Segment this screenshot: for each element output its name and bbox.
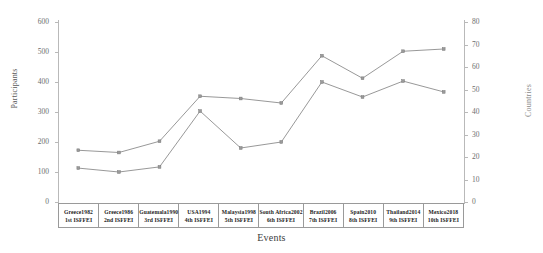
right-y-tick-label: 20 [472, 153, 496, 161]
x-axis-category-9: Thailand20149th ISFFEI [384, 204, 424, 227]
data-point-marker [442, 91, 445, 94]
data-point-marker [321, 54, 324, 57]
data-point-marker [158, 166, 161, 169]
data-point-marker [321, 81, 324, 84]
series-plot-area [58, 22, 464, 202]
right-y-tick-label: 70 [472, 41, 496, 49]
data-point-marker [442, 48, 445, 51]
category-event-name: Malaysia1998 [222, 208, 256, 216]
x-axis-category-6: South Africa20026th ISFFEI [259, 204, 303, 227]
right-y-tick-label: 10 [472, 176, 496, 184]
right-y-tick [464, 22, 468, 23]
category-event-ordinal: 6th ISFFEI [267, 216, 295, 224]
right-y-tick-label: 80 [472, 18, 496, 26]
right-y-axis-title: Countries [524, 65, 533, 137]
category-event-ordinal: 7th ISFFEI [309, 216, 337, 224]
left-y-tick-label: 600 [15, 18, 49, 26]
category-event-ordinal: 2nd ISFFEI [104, 216, 133, 224]
category-event-name: Mexico2018 [429, 208, 459, 216]
left-y-tick-label: 200 [15, 138, 49, 146]
data-point-marker [158, 140, 161, 143]
category-event-ordinal: 9th ISFFEI [389, 216, 417, 224]
data-point-marker [402, 80, 405, 83]
x-axis-category-8: Spain20108th ISFFEI [344, 204, 384, 227]
data-point-marker [280, 141, 283, 144]
left-y-tick-label: 400 [15, 78, 49, 86]
data-point-marker [118, 171, 121, 174]
right-y-tick [464, 67, 468, 68]
right-y-tick-label: 30 [472, 131, 496, 139]
right-y-tick [464, 157, 468, 158]
right-y-tick-label: 40 [472, 108, 496, 116]
category-event-name: Greece1986 [104, 208, 133, 216]
category-event-ordinal: 4th ISFFEI [185, 216, 213, 224]
data-point-marker [239, 147, 242, 150]
data-point-marker [361, 96, 364, 99]
right-y-tick-label: 60 [472, 63, 496, 71]
x-axis-category-3: Guatemala19903rd ISFFEI [139, 204, 179, 227]
x-axis-category-10: Mexico201810th ISFFEI [424, 204, 464, 227]
right-y-tick-label: 0 [472, 198, 496, 206]
x-axis-category-5: Malaysia19985th ISFFEI [219, 204, 259, 227]
data-point-marker [199, 95, 202, 98]
category-event-ordinal: 5th ISFFEI [225, 216, 253, 224]
category-event-name: Brazil2006 [310, 208, 337, 216]
data-point-marker [239, 97, 242, 100]
data-point-marker [199, 110, 202, 113]
data-point-marker [280, 102, 283, 105]
x-axis-category-4: USA19944th ISFFEI [179, 204, 219, 227]
left-y-tick-label: 100 [15, 168, 49, 176]
category-event-name: Spain2010 [350, 208, 376, 216]
data-point-marker [77, 167, 80, 170]
category-event-name: Thailand2014 [386, 208, 420, 216]
category-event-ordinal: 1st ISFFEI [65, 216, 92, 224]
category-event-ordinal: 10th ISFFEI [428, 216, 459, 224]
data-point-marker [361, 77, 364, 80]
right-y-tick [464, 45, 468, 46]
right-y-tick [464, 180, 468, 181]
series-line-participants [78, 81, 443, 172]
right-y-tick [464, 135, 468, 136]
right-y-tick [464, 112, 468, 113]
participants-countries-line-chart: Participants Countries Events 0100200300… [0, 0, 543, 253]
right-y-tick [464, 90, 468, 91]
category-event-name: Greece1982 [64, 208, 93, 216]
x-axis-title: Events [0, 232, 543, 243]
x-axis-category-1: Greece19821st ISFFEI [59, 204, 99, 227]
right-y-tick-label: 50 [472, 86, 496, 94]
category-event-ordinal: 8th ISFFEI [349, 216, 377, 224]
left-y-tick-label: 0 [15, 198, 49, 206]
data-point-marker [77, 149, 80, 152]
category-event-name: Guatemala1990 [139, 208, 178, 216]
series-line-countries [78, 49, 443, 153]
data-point-marker [402, 50, 405, 53]
left-y-tick-label: 500 [15, 48, 49, 56]
x-axis-category-7: Brazil20067th ISFFEI [304, 204, 344, 227]
left-y-tick-label: 300 [15, 108, 49, 116]
data-point-marker [118, 151, 121, 154]
category-event-name: South Africa2002 [259, 208, 302, 216]
right-y-tick [464, 202, 468, 203]
x-axis-category-boxes: Greece19821st ISFFEIGreece19862nd ISFFEI… [58, 203, 464, 228]
x-axis-category-2: Greece19862nd ISFFEI [99, 204, 139, 227]
category-event-ordinal: 3rd ISFFEI [144, 216, 173, 224]
category-event-name: USA1994 [187, 208, 210, 216]
